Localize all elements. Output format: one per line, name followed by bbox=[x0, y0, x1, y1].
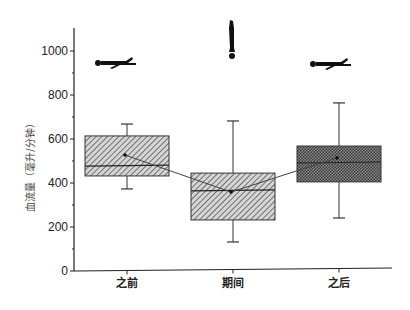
y-tick-label: 0 bbox=[61, 264, 68, 278]
box-iqr bbox=[191, 173, 275, 220]
box-3 bbox=[297, 103, 381, 218]
x-axis: 之前期间之后 bbox=[74, 268, 392, 290]
x-category-label: 之后 bbox=[328, 276, 350, 290]
y-tick-label: 600 bbox=[48, 132, 68, 146]
x-category-label: 之前 bbox=[116, 276, 138, 290]
mean-marker bbox=[229, 190, 233, 194]
box-iqr bbox=[297, 146, 381, 182]
y-tick-label: 1000 bbox=[41, 44, 68, 58]
box-series bbox=[85, 103, 381, 242]
mean-marker bbox=[335, 156, 339, 160]
box-1 bbox=[85, 124, 169, 189]
inverted-person-icon bbox=[229, 20, 235, 59]
y-tick-label: 200 bbox=[48, 220, 68, 234]
y-axis: 02004006008001000 bbox=[41, 28, 74, 278]
lying-person-icon bbox=[95, 57, 136, 69]
lying-person-icon bbox=[310, 58, 351, 70]
box-plot-chart: 02004006008001000 之前期间之后 血流量（毫升/分钟） bbox=[0, 0, 410, 310]
y-tick-label: 400 bbox=[48, 176, 68, 190]
mean-marker bbox=[123, 153, 127, 157]
posture-icons bbox=[95, 20, 351, 70]
y-tick-label: 800 bbox=[48, 88, 68, 102]
y-axis-title: 血流量（毫升/分钟） bbox=[24, 118, 36, 211]
x-category-label: 期间 bbox=[222, 276, 244, 290]
